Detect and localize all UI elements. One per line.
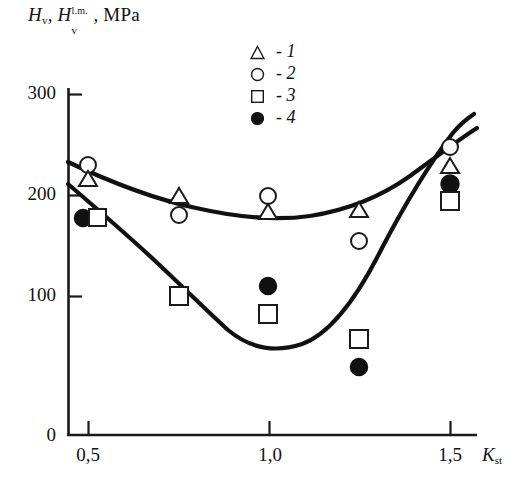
square-open-marker [350,330,368,348]
figure-root: Hv, Hvl.m., MPa - 1 - 2 [0,0,522,488]
circle-filled-marker [441,175,459,193]
y-tick-label-0: 0 [0,424,56,446]
circle-open-marker [442,139,458,155]
x-tick-label-1-5: 1,5 [420,444,480,466]
circle-filled-marker [351,359,368,376]
y-tick-label-300: 300 [0,82,56,104]
x-tick-label-0-5: 0,5 [58,444,118,466]
axis-lines [67,88,477,436]
triangle-open-marker [441,158,459,173]
x-axis-title: Kst [482,444,502,466]
circle-open-marker [351,233,367,249]
x-tick-label-1-0: 1,0 [240,444,300,466]
x-axis-symbol-sub: st [495,454,502,466]
x-axis-ticks [89,421,451,435]
y-tick-label-200: 200 [0,183,56,205]
data-point-group-x1.5 [441,139,459,210]
circle-open-marker [260,188,276,204]
circle-filled-marker [260,278,277,295]
x-axis-symbol: K [482,444,495,465]
square-open-marker [441,192,459,210]
y-tick-label-100: 100 [0,284,56,306]
plot-area [0,0,522,488]
upper-trend-curve [68,128,477,218]
data-point-group-x1.0 [259,188,277,323]
square-open-marker [89,209,106,226]
triangle-open-marker [170,188,188,203]
square-open-marker [259,305,277,323]
circle-open-marker [171,207,187,223]
square-open-marker [170,287,188,305]
triangle-open-marker [259,204,277,219]
